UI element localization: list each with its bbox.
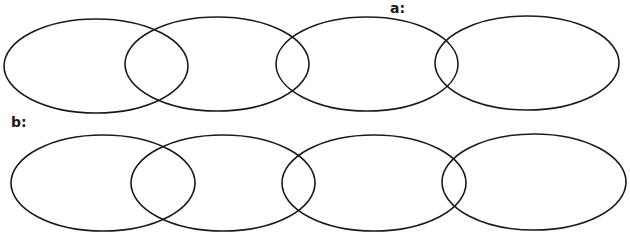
diagram-canvas: a: b:	[0, 0, 630, 235]
ellipse-diagram	[0, 0, 630, 235]
ellipse-row-a	[4, 16, 619, 113]
ellipse-2	[131, 135, 315, 231]
ellipse-2	[125, 17, 309, 111]
ellipse-1	[4, 19, 188, 113]
ellipse-4	[442, 134, 626, 230]
row-a-label: a:	[390, 1, 405, 15]
ellipse-1	[11, 135, 195, 231]
ellipse-row-b	[11, 134, 626, 231]
row-b-label: b:	[11, 115, 27, 129]
ellipse-3	[276, 17, 458, 111]
ellipse-4	[435, 16, 619, 110]
ellipse-3	[282, 135, 466, 231]
